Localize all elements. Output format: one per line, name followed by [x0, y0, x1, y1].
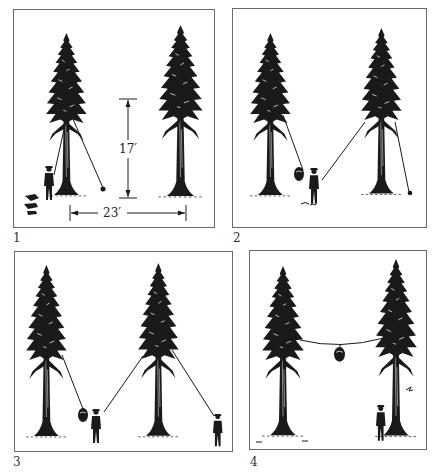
right-tree	[361, 28, 402, 195]
rope	[69, 110, 103, 188]
spacing-dimension: 23′	[70, 205, 186, 221]
panel-4-scene	[256, 259, 417, 442]
rope-right	[172, 350, 214, 416]
illustration: 17′ 23′	[0, 0, 434, 474]
bag	[294, 167, 304, 181]
left-tree	[262, 266, 304, 436]
height-dimension: 17′	[119, 99, 137, 198]
rope-weight	[101, 187, 106, 192]
person	[309, 168, 319, 204]
person	[91, 409, 101, 443]
panel-3-scene	[26, 263, 222, 446]
rope-left	[62, 355, 83, 409]
left-tree	[250, 33, 291, 196]
left-tree	[26, 265, 67, 437]
bag	[78, 408, 88, 422]
second-person	[213, 414, 223, 446]
height-label: 17′	[119, 142, 137, 156]
rope-between-trees	[300, 338, 384, 345]
rope-right	[322, 122, 365, 180]
rope-left	[283, 115, 303, 170]
rope-middle	[104, 356, 143, 412]
right-tree	[158, 25, 202, 197]
person	[44, 166, 54, 200]
panel-2-scene	[250, 28, 412, 205]
right-tree	[138, 263, 179, 437]
suspended-bag	[334, 347, 345, 362]
spacing-label: 23′	[103, 206, 121, 220]
left-tree	[46, 33, 87, 196]
panel-1-scene: 17′ 23′	[24, 25, 203, 221]
